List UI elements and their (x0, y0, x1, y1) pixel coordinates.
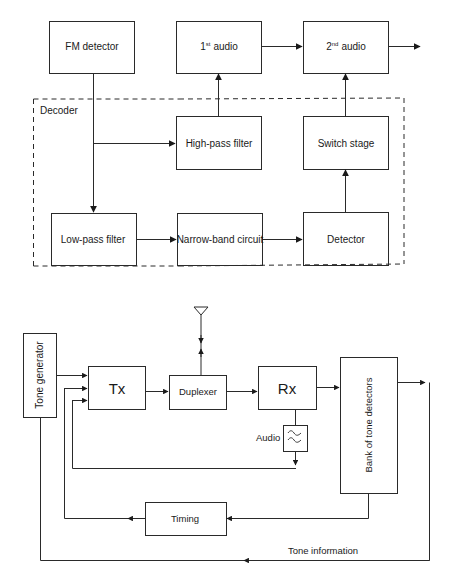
label-tone-generator: Tone generator (34, 341, 45, 409)
label-audio: Audio (256, 432, 280, 443)
label-tone-information: Tone information (288, 545, 358, 556)
arrow-bank-to-timing (227, 493, 369, 519)
diagram-canvas: Decoder FM detector 1staudio 2ndaudio Hi… (0, 0, 452, 587)
tone-signalling-labels: Tone generator Tx Duplexer Rx Audio Bank… (34, 341, 374, 556)
label-bank-of-tone-detectors: Bank of tone detectors (363, 377, 374, 472)
label-low-pass-filter: Low-pass filter (61, 234, 126, 245)
label-switch-stage: Switch stage (318, 138, 375, 149)
box-audio-filter (284, 426, 308, 452)
bandpass-filter-icon (288, 431, 301, 443)
decoder-group-label: Decoder (40, 105, 78, 116)
arrow-timing-to-tx (65, 388, 146, 519)
label-second-audio: 2ndaudio (326, 41, 366, 52)
label-fm-detector: FM detector (65, 41, 119, 52)
label-duplexer: Duplexer (179, 386, 217, 397)
label-first-audio: 1staudio (200, 41, 238, 52)
label-timing: Timing (171, 513, 199, 524)
label-tx: Tx (109, 380, 126, 397)
label-high-pass-filter: High-pass filter (186, 138, 253, 149)
label-rx: Rx (278, 380, 297, 397)
label-detector: Detector (327, 234, 365, 245)
label-narrow-band-circuit: Narrow-band circuit (177, 234, 264, 245)
decoder-labels: Decoder FM detector 1staudio 2ndaudio Hi… (40, 41, 375, 245)
